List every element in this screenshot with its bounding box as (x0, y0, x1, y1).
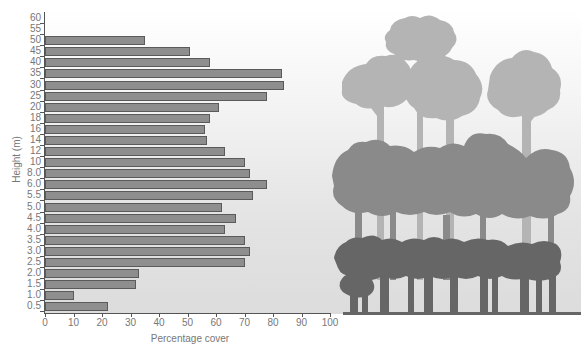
bar-height-50 (45, 36, 145, 45)
forest-silhouette-icon (330, 0, 581, 330)
y-tick-label: 6.0 (14, 179, 41, 189)
bar-height-14 (45, 136, 207, 145)
y-tick-label: 16 (14, 124, 41, 134)
x-tick-label: 90 (290, 318, 314, 328)
y-tick-label: 4.5 (14, 213, 41, 223)
y-tick-label: 12 (14, 146, 41, 156)
bar-height-16 (45, 125, 205, 134)
y-tick-label: 35 (14, 68, 41, 78)
bar-height-5_5 (45, 191, 253, 200)
x-tick-label: 80 (261, 318, 285, 328)
bar-height-4_0 (45, 225, 225, 234)
bar-height-3_5 (45, 236, 245, 245)
x-tick-label: 70 (233, 318, 257, 328)
bar-height-8_0 (45, 169, 250, 178)
bar-height-12 (45, 147, 225, 156)
bar-height-25 (45, 92, 267, 101)
y-tick-label: 2.5 (14, 257, 41, 267)
y-tick-label: 2.0 (14, 268, 41, 278)
y-tick-label: 4.0 (14, 224, 41, 234)
y-tick-label: 60 (14, 13, 41, 23)
y-tick-label: 3.0 (14, 246, 41, 256)
bar-height-5_0 (45, 203, 222, 212)
bar-height-30 (45, 81, 284, 90)
bar-height-10 (45, 158, 245, 167)
x-tick-label: 30 (119, 318, 143, 328)
bar-height-4_5 (45, 214, 236, 223)
y-tick-label: 1.5 (14, 279, 41, 289)
y-tick-label: 1.0 (14, 290, 41, 300)
y-tick-label: 10 (14, 157, 41, 167)
bar-height-2_5 (45, 258, 245, 267)
bar-height-0_5 (45, 302, 108, 311)
bar-height-35 (45, 69, 282, 78)
y-tick-label: 5.5 (14, 190, 41, 200)
bar-height-1_0 (45, 291, 74, 300)
y-tick-label: 14 (14, 135, 41, 145)
bar-height-45 (45, 47, 190, 56)
x-tick-label: 0 (33, 318, 57, 328)
y-tick-label: 30 (14, 80, 41, 90)
x-tick-label: 60 (204, 318, 228, 328)
y-tick-label: 45 (14, 46, 41, 56)
x-tick-label: 40 (147, 318, 171, 328)
x-tick-label: 20 (90, 318, 114, 328)
bar-height-1_5 (45, 280, 136, 289)
y-tick-label: 40 (14, 57, 41, 67)
y-tick-label: 8.0 (14, 168, 41, 178)
bar-height-6_0 (45, 180, 267, 189)
bar-height-40 (45, 58, 210, 67)
bar-height-3_0 (45, 247, 250, 256)
y-tick-label: 18 (14, 113, 41, 123)
y-tick-label: 20 (14, 102, 41, 112)
y-tick-label: 50 (14, 35, 41, 45)
bar-height-20 (45, 103, 219, 112)
x-tick-label: 10 (62, 318, 86, 328)
y-tick-label: 5.0 (14, 202, 41, 212)
bar-height-2_0 (45, 269, 139, 278)
y-tick-label: 0.5 (14, 301, 41, 311)
y-tick-label: 3.5 (14, 235, 41, 245)
x-axis-title: Percentage cover (130, 333, 250, 344)
y-tick-label: 55 (14, 24, 41, 34)
y-tick-mark (40, 311, 44, 312)
bar-height-18 (45, 114, 210, 123)
y-tick-label: 25 (14, 91, 41, 101)
x-tick-label: 50 (176, 318, 200, 328)
